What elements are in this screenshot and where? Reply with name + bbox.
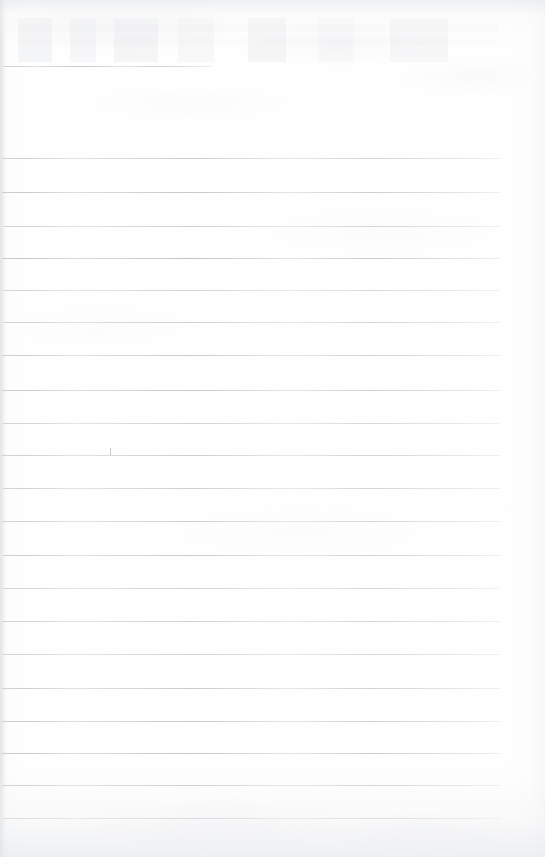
ruling-line	[3, 226, 500, 227]
ruling-line	[3, 818, 500, 819]
ruling-line	[3, 488, 500, 489]
ruling-line	[2, 192, 500, 193]
ruling-line	[3, 555, 500, 556]
scanned-notebook-page	[0, 0, 545, 857]
ruling-line	[2, 688, 500, 689]
ruling-line	[2, 621, 500, 622]
ruling-line	[2, 390, 500, 391]
ruling-line	[3, 588, 500, 589]
ruling-line	[2, 785, 500, 786]
ruling-line	[3, 654, 500, 655]
paper-background	[0, 0, 545, 857]
ruling-line	[2, 521, 500, 522]
ruling-line	[2, 355, 500, 356]
stray-pen-tick-mark	[110, 448, 111, 455]
ruling-line	[2, 258, 500, 259]
ruling-line	[3, 423, 500, 424]
ruling-line	[3, 322, 500, 323]
ruling-line	[3, 290, 500, 291]
ruling-line	[2, 721, 500, 722]
ruling-line	[2, 158, 500, 159]
ruling-line	[2, 753, 500, 754]
ruling-line	[2, 455, 500, 456]
ruling-line	[3, 66, 212, 67]
